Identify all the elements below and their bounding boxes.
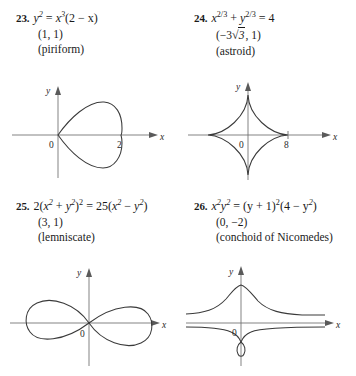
problem-25-equation-line: 25.2(x2 + y2)2 = 25(x2 − y2): [16, 199, 178, 215]
problem-24-statement: 24.x2/3 + y2/3 = 4 (−3√3, 1) (astroid): [178, 0, 356, 59]
y-axis-arrowhead: [245, 82, 251, 91]
origin-label: 0: [49, 140, 54, 150]
problem-23-statement: 23.y2 = x3(2 − x) (1, 1) (piriform): [0, 0, 178, 57]
problem-24-equation-line: 24.x2/3 + y2/3 = 4: [194, 11, 356, 27]
y-axis-arrowhead: [55, 86, 61, 95]
problem-23-point: (1, 1): [16, 27, 178, 42]
problem-26-graph: y x 0: [178, 266, 356, 372]
problem-26-statement: 26.x2y2 = (y + 1)2(4 − y2) (0, −2) (conc…: [178, 188, 356, 245]
origin-label: 0: [232, 328, 237, 338]
problem-25-point: (3, 1): [16, 215, 178, 230]
x-tick-label-2: 2: [117, 140, 122, 150]
x-axis-arrowhead: [325, 320, 334, 326]
origin-label: 0: [80, 329, 85, 339]
problem-23-curve-name: (piriform): [16, 42, 178, 57]
problem-23: 23.y2 = x3(2 − x) (1, 1) (piriform) y x: [0, 0, 178, 188]
problem-26-point: (0, −2): [194, 215, 356, 230]
problem-24-point: (−3√3, 1): [194, 27, 356, 44]
y-axis-arrowhead: [238, 266, 244, 275]
problem-25-graph: y x 0: [0, 266, 178, 372]
problem-23-equation: y2 = x3(2 − x): [33, 11, 97, 25]
x-axis-arrowhead: [322, 132, 331, 138]
x-axis-label: x: [335, 320, 341, 330]
x-axis-label: x: [332, 132, 338, 142]
problem-24-graph: y x 0 8: [178, 78, 356, 184]
problem-26: 26.x2y2 = (y + 1)2(4 − y2) (0, −2) (conc…: [178, 188, 356, 376]
x-axis-arrowhead: [149, 132, 158, 138]
problem-24-curve-name: (astroid): [194, 44, 356, 59]
y-axis-label: y: [235, 82, 241, 92]
problem-grid: 23.y2 = x3(2 − x) (1, 1) (piriform) y x: [0, 0, 356, 376]
problem-23-number: 23.: [16, 12, 29, 24]
x-axis-label: x: [159, 132, 165, 142]
problem-26-equation-line: 26.x2y2 = (y + 1)2(4 − y2): [194, 199, 356, 215]
x-tick-label-8: 8: [284, 140, 289, 150]
y-axis-label: y: [45, 86, 51, 96]
exercise-page: 23.y2 = x3(2 − x) (1, 1) (piriform) y x: [0, 0, 356, 376]
problem-25: 25.2(x2 + y2)2 = 25(x2 − y2) (3, 1) (lem…: [0, 188, 178, 376]
problem-26-equation: x2y2 = (y + 1)2(4 − y2): [211, 199, 316, 213]
problem-25-equation: 2(x2 + y2)2 = 25(x2 − y2): [33, 199, 147, 213]
y-axis-label: y: [76, 268, 82, 278]
origin-label: 0: [239, 140, 244, 150]
y-axis-label: y: [228, 267, 234, 277]
problem-25-number: 25.: [16, 200, 29, 212]
x-axis-label: x: [161, 320, 167, 330]
y-axis-arrowhead: [86, 268, 92, 277]
problem-26-curve-name: (conchoid of Nicomedes): [194, 230, 356, 245]
conchoid-lower-branch: [186, 327, 325, 342]
problem-25-curve-name: (lemniscate): [16, 230, 178, 245]
problem-25-statement: 25.2(x2 + y2)2 = 25(x2 − y2) (3, 1) (lem…: [0, 188, 178, 245]
problem-24-number: 24.: [194, 12, 207, 24]
problem-24: 24.x2/3 + y2/3 = 4 (−3√3, 1) (astroid) y…: [178, 0, 356, 188]
problem-23-graph: y x 0 2: [0, 78, 178, 184]
problem-26-number: 26.: [194, 200, 207, 212]
problem-24-equation: x2/3 + y2/3 = 4: [211, 11, 274, 25]
problem-23-equation-line: 23.y2 = x3(2 − x): [16, 11, 178, 27]
conchoid-upper-branch: [186, 285, 325, 315]
